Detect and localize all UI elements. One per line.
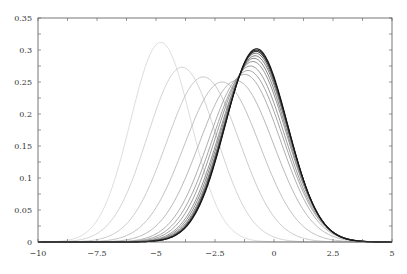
- x-axis-tick-labels: −10−7.5−5−2.502.55: [30, 249, 395, 258]
- x-tick-label: −10: [30, 249, 47, 258]
- x-tick-label: 5: [389, 249, 394, 258]
- chart: −10−7.5−5−2.502.55 00.050.10.150.20.250.…: [0, 0, 407, 274]
- y-tick-label: 0.1: [19, 174, 32, 183]
- curve-8: [38, 66, 392, 242]
- y-tick-label: 0.2: [19, 110, 32, 119]
- y-tick-label: 0.25: [14, 78, 32, 87]
- y-tick-label: 0.35: [14, 14, 32, 23]
- x-tick-label: −5: [150, 249, 162, 258]
- y-tick-label: 0.15: [14, 142, 32, 151]
- y-tick-label: 0: [27, 238, 32, 247]
- x-tick-label: 2.5: [327, 249, 340, 258]
- curve-1: [38, 42, 392, 242]
- y-tick-label: 0.3: [19, 46, 32, 55]
- plot-frame: [38, 18, 392, 242]
- y-tick-label: 0.05: [14, 206, 32, 215]
- y-axis-tick-labels: 00.050.10.150.20.250.30.35: [14, 14, 32, 247]
- x-tick-label: −7.5: [87, 249, 106, 258]
- axes-group: [38, 18, 392, 242]
- curve-15: [38, 49, 392, 242]
- x-tick-label: −2.5: [205, 249, 224, 258]
- x-tick-label: 0: [271, 249, 276, 258]
- curve-11: [38, 56, 392, 242]
- curves-group: [38, 42, 392, 242]
